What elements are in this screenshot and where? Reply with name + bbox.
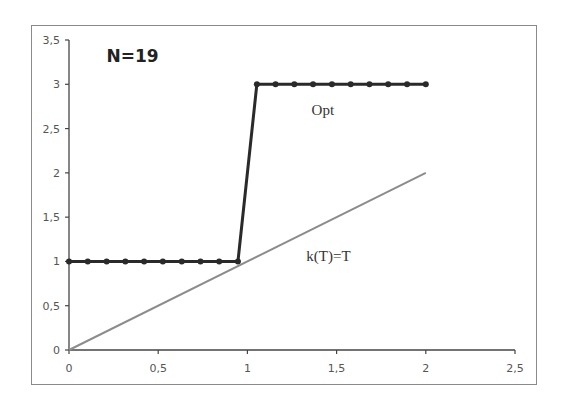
x-tick-label: 0 bbox=[66, 362, 73, 375]
y-tick-label: 0 bbox=[53, 344, 60, 357]
series-line-opt bbox=[69, 84, 426, 261]
x-tick-label: 1 bbox=[244, 362, 251, 375]
data-point-opt bbox=[385, 81, 391, 87]
data-point-opt bbox=[404, 81, 410, 87]
y-tick-label: 1 bbox=[53, 255, 60, 268]
y-tick-label: 2,5 bbox=[43, 123, 61, 136]
annotation-k-t-t: k(T)=T bbox=[306, 248, 350, 265]
data-point-opt bbox=[179, 258, 185, 264]
data-point-opt bbox=[366, 81, 372, 87]
data-point-opt bbox=[216, 258, 222, 264]
y-tick-label: 3,5 bbox=[43, 34, 61, 47]
data-point-opt bbox=[273, 81, 279, 87]
data-point-opt bbox=[310, 81, 316, 87]
data-point-opt bbox=[104, 258, 110, 264]
data-point-opt bbox=[85, 258, 91, 264]
data-point-opt bbox=[423, 81, 429, 87]
data-point-opt bbox=[122, 258, 128, 264]
data-point-opt bbox=[66, 258, 72, 264]
data-point-opt bbox=[197, 258, 203, 264]
data-point-opt bbox=[329, 81, 335, 87]
x-tick-label: 0,5 bbox=[149, 362, 167, 375]
y-tick-label: 2 bbox=[53, 167, 60, 180]
x-tick-label: 2 bbox=[422, 362, 429, 375]
y-tick-label: 0,5 bbox=[43, 300, 61, 313]
chart-plot: 00,511,522,533,500,511,522,5N=19Optk(T)=… bbox=[0, 0, 561, 409]
x-tick-label: 1,5 bbox=[328, 362, 346, 375]
data-point-opt bbox=[141, 258, 147, 264]
data-point-opt bbox=[254, 81, 260, 87]
data-point-opt bbox=[160, 258, 166, 264]
y-tick-label: 1,5 bbox=[43, 211, 61, 224]
x-tick-label: 2,5 bbox=[506, 362, 524, 375]
data-point-opt bbox=[348, 81, 354, 87]
data-point-opt bbox=[291, 81, 297, 87]
chart-title: N=19 bbox=[106, 46, 158, 66]
annotation-opt: Opt bbox=[312, 102, 335, 118]
y-tick-label: 3 bbox=[53, 78, 60, 91]
data-point-opt bbox=[235, 258, 241, 264]
